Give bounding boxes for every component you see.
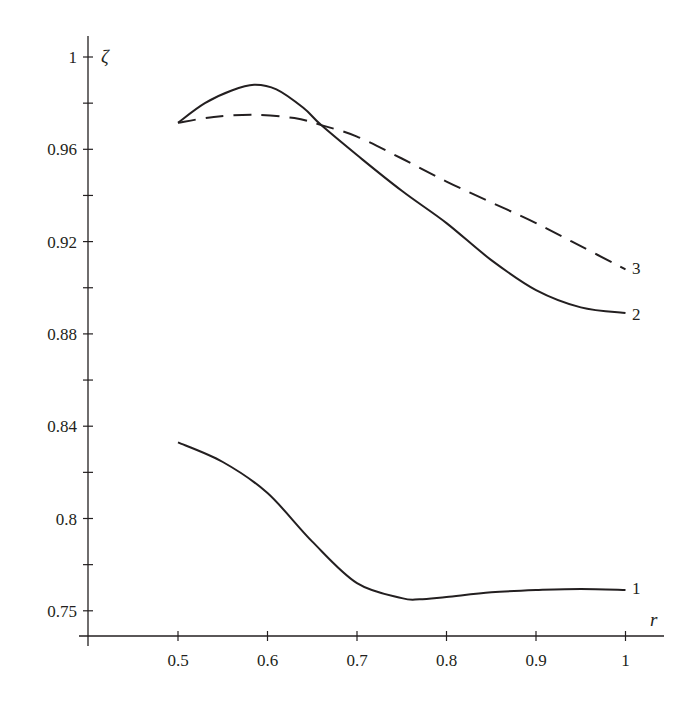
x-tick-label: 0.7 bbox=[346, 651, 368, 670]
curves bbox=[178, 85, 626, 600]
x-tick-label: 1 bbox=[621, 651, 630, 670]
y-axis-title: ζ bbox=[101, 46, 110, 67]
y-tick-label: 0.96 bbox=[47, 140, 77, 159]
curve-2 bbox=[178, 85, 626, 313]
x-ticks: 0.50.60.70.80.91 bbox=[167, 631, 629, 670]
y-tick-label: 0.84 bbox=[47, 417, 77, 436]
curve-label-3: 3 bbox=[632, 259, 641, 278]
line-chart: 10.960.920.880.840.80.75 0.50.60.70.80.9… bbox=[0, 0, 696, 701]
curve-1 bbox=[178, 442, 626, 599]
x-axis-title: r bbox=[650, 609, 658, 630]
x-tick-label: 0.6 bbox=[257, 651, 278, 670]
x-tick-label: 0.9 bbox=[525, 651, 546, 670]
curve-label-2: 2 bbox=[632, 305, 641, 324]
x-tick-label: 0.5 bbox=[167, 651, 188, 670]
y-ticks: 10.960.920.880.840.80.75 bbox=[47, 48, 93, 621]
y-tick-label: 0.75 bbox=[47, 602, 77, 621]
curve-label-1: 1 bbox=[632, 579, 641, 598]
y-tick-label: 1 bbox=[69, 48, 78, 67]
y-tick-label: 0.92 bbox=[47, 233, 77, 252]
axes bbox=[79, 36, 664, 646]
y-tick-label: 0.8 bbox=[56, 510, 77, 529]
x-tick-label: 0.8 bbox=[436, 651, 457, 670]
y-tick-label: 0.88 bbox=[47, 325, 77, 344]
